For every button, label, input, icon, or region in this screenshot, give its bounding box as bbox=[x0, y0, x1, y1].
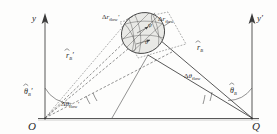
label-delta-r-prime-flow: Δrflow′ bbox=[102, 13, 120, 22]
delta-theta-prime-flow-prime: ′ bbox=[77, 100, 79, 108]
right-axis-group bbox=[249, 13, 256, 118]
blob-interior-label-lower: θ bbox=[145, 39, 148, 45]
label-angle-theta-prime-B: θB′ bbox=[23, 84, 32, 97]
arc-delta-theta-prime-flow bbox=[93, 93, 97, 101]
right-axis-label-prime: ′ bbox=[261, 13, 264, 23]
theta-B-hat-accent bbox=[229, 83, 234, 85]
origin-label-Q: Q bbox=[252, 120, 260, 132]
ray-O-lower bbox=[45, 52, 172, 118]
angle-arcs-Q bbox=[203, 88, 252, 104]
figure-canvas: y y′ O Q bbox=[0, 0, 277, 134]
label-delta-r-flow: Δrflow bbox=[158, 15, 174, 24]
diagram-svg: y y′ O Q bbox=[0, 0, 277, 134]
left-axis-group bbox=[42, 13, 49, 118]
baseline-group bbox=[38, 119, 259, 121]
label-theta-B-text: θB bbox=[230, 86, 237, 96]
theta-B-subscript: B bbox=[234, 91, 237, 96]
blob-interior-label-upper: ψ bbox=[148, 22, 152, 28]
label-theta-prime-B-text: θB′ bbox=[24, 87, 33, 97]
arc-delta-theta-prime-flow-2 bbox=[86, 96, 90, 104]
label-delta-theta-flow: Δθflow bbox=[184, 72, 201, 81]
label-vector-r-prime-B: rB′ bbox=[65, 49, 74, 61]
r-B-subscript: B bbox=[200, 48, 203, 53]
angle-arcs-O bbox=[45, 88, 97, 104]
label-vector-r-B: rB bbox=[196, 41, 204, 53]
flow-tube-blob bbox=[114, 5, 172, 61]
delta-r-prime-flow-prime: ′ bbox=[118, 13, 120, 21]
left-axis-label: y bbox=[31, 13, 36, 23]
ray-blob-to-baseline bbox=[112, 55, 148, 118]
ray-Q-center-r bbox=[160, 40, 252, 118]
label-delta-theta-prime-flow: Δθflow′ bbox=[61, 100, 79, 109]
right-axis-label: y′ bbox=[256, 13, 264, 23]
label-r-prime-B-text: rB′ bbox=[66, 51, 74, 61]
arc-delta-theta-flow bbox=[203, 95, 205, 104]
delta-theta-flow-subscript: flow bbox=[192, 76, 201, 81]
flow-tube-blob-group: ψ θ bbox=[113, 5, 175, 61]
delta-r-flow-subscript: flow bbox=[165, 19, 174, 24]
label-angle-theta-B: θB bbox=[229, 83, 237, 96]
theta-prime-B-hat-accent bbox=[23, 84, 28, 86]
ray-O-bound-upper bbox=[45, 17, 131, 118]
ray-Q-lower bbox=[148, 55, 252, 118]
label-r-B-text: rB bbox=[197, 43, 203, 53]
r-prime-B-prime: ′ bbox=[72, 51, 74, 60]
theta-prime-B-prime: ′ bbox=[31, 87, 33, 96]
origin-label-O: O bbox=[28, 120, 36, 132]
